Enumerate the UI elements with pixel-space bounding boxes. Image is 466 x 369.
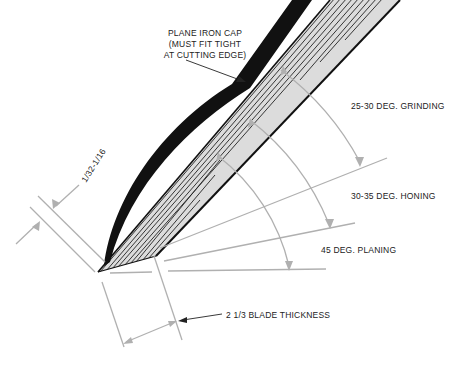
cap-label-line3: AT CUTTING EDGE) xyxy=(164,50,247,60)
cap-label-line1: PLANE IRON CAP xyxy=(168,28,242,38)
planing-angle-label: 45 DEG. PLANING xyxy=(321,245,396,255)
cap-label-line2: (MUST FIT TIGHT xyxy=(169,39,241,49)
blade-thickness-label: 2 1/3 BLADE THICKNESS xyxy=(226,310,330,320)
blade-thickness-dimension xyxy=(102,256,222,347)
cap-gap-dimension xyxy=(16,185,105,272)
honing-angle-label: 30-35 DEG. HONING xyxy=(351,191,436,201)
plane-iron-diagram: PLANE IRON CAP (MUST FIT TIGHT AT CUTTIN… xyxy=(0,0,466,369)
plane-iron-blade xyxy=(98,0,400,272)
cap-leader-arrow xyxy=(186,60,246,82)
cap-gap-label: 1/32-1/16 xyxy=(79,147,108,184)
grinding-angle-label: 25-30 DEG. GRINDING xyxy=(351,101,445,111)
